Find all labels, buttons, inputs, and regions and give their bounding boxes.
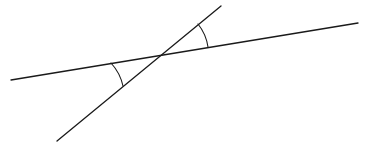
geometry-figure	[0, 0, 367, 148]
geometry-canvas	[0, 0, 367, 148]
figure-background	[0, 0, 367, 148]
